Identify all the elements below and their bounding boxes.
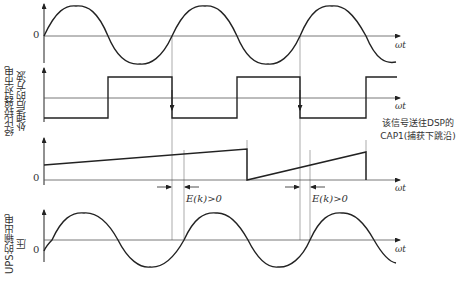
panel4-y-axis-label: UPS的输出电压 — [4, 212, 32, 276]
panel4-x-axis-label: ωt — [395, 244, 406, 254]
cap1-annotation: 该信号送往DSP的 CAP1(捕获下跳沿) — [372, 117, 462, 143]
phase-error-label-2: E(k)>0 — [312, 193, 348, 204]
sawtooth-wave — [44, 149, 366, 180]
panel1-zero-label: 0 — [33, 29, 39, 40]
mains-sine-curve — [44, 6, 396, 64]
guide-lines — [172, 36, 366, 240]
phase-error-label-1: E(k)>0 — [186, 193, 222, 204]
panel-comparator-square-wave — [44, 68, 400, 122]
square-wave — [44, 77, 397, 118]
panel2-y-axis-label: 经比较器对市电处理后的方波 — [4, 62, 32, 140]
panel3-x-axis-label: ωt — [395, 183, 406, 193]
panel4-zero-label: 0 — [33, 244, 39, 255]
panel3-zero-label: 0 — [33, 172, 39, 183]
cap1-annotation-line2: CAP1(捕获下跳沿) — [372, 130, 462, 143]
panel-mains-voltage — [44, 4, 400, 64]
panel1-x-axis-label: ωt — [395, 40, 406, 50]
panel2-x-axis-label: ωt — [395, 101, 406, 111]
panel-sawtooth-counter — [44, 138, 400, 187]
panel-ups-output-voltage — [44, 210, 400, 267]
cap1-annotation-line1: 该信号送往DSP的 — [372, 117, 462, 130]
